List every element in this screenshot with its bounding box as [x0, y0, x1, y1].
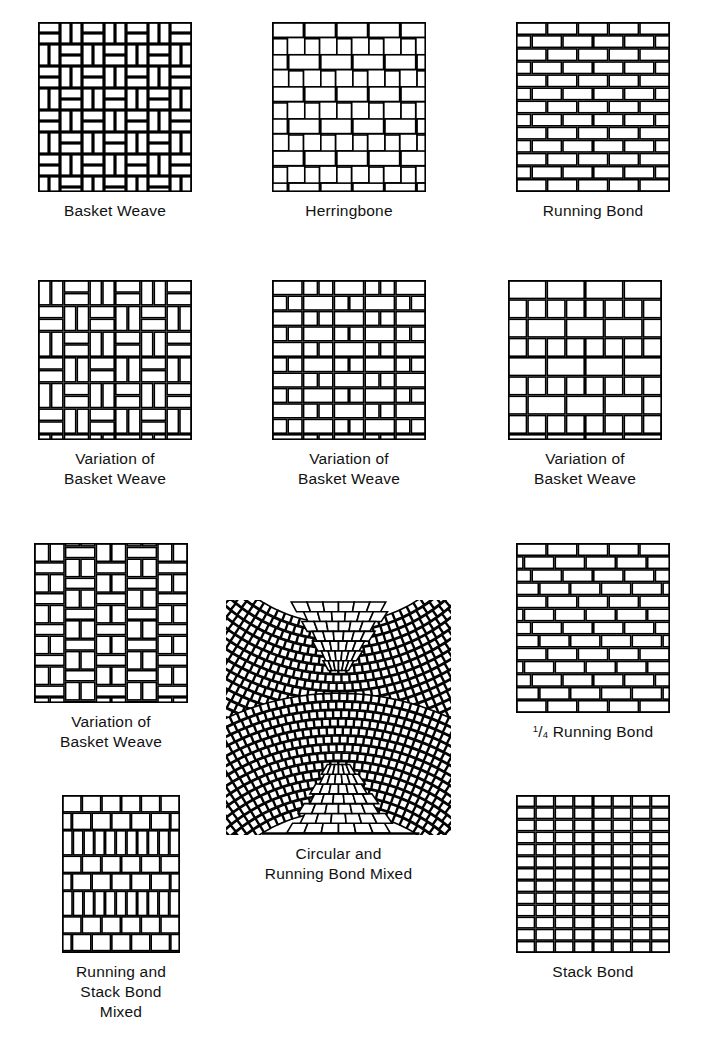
pattern-swatch-variation-basket-weave-2	[272, 280, 426, 440]
figure-variation-basket-weave-4: Variation ofBasket Weave	[34, 543, 188, 752]
pattern-swatch-running-bond	[516, 22, 670, 192]
pattern-swatch-basket-weave	[38, 22, 192, 192]
caption-line: Basket Weave	[38, 201, 192, 221]
caption-line: Stack Bond	[516, 962, 670, 982]
caption-line: Basket Weave	[508, 469, 662, 489]
pattern-sheet: Basket WeaveHerringboneRunning BondVaria…	[0, 0, 722, 1038]
figure-caption-variation-basket-weave-3: Variation ofBasket Weave	[508, 449, 662, 489]
pattern-swatch-herringbone	[272, 22, 426, 192]
figure-caption-variation-basket-weave-1: Variation ofBasket Weave	[38, 449, 192, 489]
figure-caption-basket-weave: Basket Weave	[38, 201, 192, 221]
caption-line: Running Bond Mixed	[226, 864, 451, 884]
figure-variation-basket-weave-3: Variation ofBasket Weave	[508, 280, 662, 489]
figure-caption-running-bond: Running Bond	[516, 201, 670, 221]
caption-line: Variation of	[34, 712, 188, 732]
pattern-swatch-circular-running-bond-mixed	[226, 600, 451, 835]
caption-line: Circular and	[226, 844, 451, 864]
caption-line: Basket Weave	[272, 469, 426, 489]
figure-variation-basket-weave-2: Variation ofBasket Weave	[272, 280, 426, 489]
pattern-swatch-quarter-running-bond	[516, 543, 670, 713]
figure-variation-basket-weave-1: Variation ofBasket Weave	[38, 280, 192, 489]
pattern-swatch-running-stack-bond-mixed	[62, 795, 180, 953]
caption-line: Running Bond	[516, 201, 670, 221]
pattern-swatch-variation-basket-weave-1	[38, 280, 192, 440]
caption-line: Variation of	[38, 449, 192, 469]
figure-herringbone: Herringbone	[272, 22, 426, 221]
caption-line: Basket Weave	[38, 469, 192, 489]
caption-line: Variation of	[508, 449, 662, 469]
figure-caption-circular-running-bond-mixed: Circular andRunning Bond Mixed	[226, 844, 451, 884]
figure-caption-herringbone: Herringbone	[272, 201, 426, 221]
figure-caption-running-stack-bond-mixed: Running andStack Bond Mixed	[62, 962, 180, 1022]
figure-quarter-running-bond: 1/4 Running Bond	[516, 543, 670, 742]
caption-line: Basket Weave	[34, 732, 188, 752]
pattern-swatch-variation-basket-weave-4	[34, 543, 188, 703]
caption-line: Herringbone	[272, 201, 426, 221]
figure-circular-running-bond-mixed: Circular andRunning Bond Mixed	[226, 600, 451, 884]
caption-line: Variation of	[272, 449, 426, 469]
figure-stack-bond: Stack Bond	[516, 795, 670, 982]
caption-line: Running and	[62, 962, 180, 982]
figure-caption-quarter-running-bond: 1/4 Running Bond	[516, 722, 670, 742]
figure-basket-weave: Basket Weave	[38, 22, 192, 221]
pattern-swatch-variation-basket-weave-3	[508, 280, 662, 440]
figure-caption-variation-basket-weave-4: Variation ofBasket Weave	[34, 712, 188, 752]
figure-running-stack-bond-mixed: Running andStack Bond Mixed	[62, 795, 180, 1022]
figure-caption-stack-bond: Stack Bond	[516, 962, 670, 982]
pattern-swatch-stack-bond	[516, 795, 670, 953]
caption-line: Stack Bond Mixed	[62, 982, 180, 1022]
figure-caption-variation-basket-weave-2: Variation ofBasket Weave	[272, 449, 426, 489]
figure-running-bond: Running Bond	[516, 22, 670, 221]
